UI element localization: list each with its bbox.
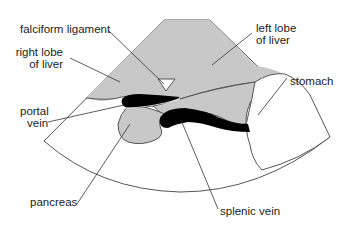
label-pancreas: pancreas (30, 196, 78, 208)
label-stomach: stomach (290, 75, 333, 87)
label-left-lobe: left lobe (256, 22, 296, 34)
label-portal-vein-2: vein (27, 117, 48, 129)
label-splenic-vein: splenic vein (220, 205, 280, 217)
label-right-lobe-2: of liver (29, 58, 63, 70)
pancreas (118, 106, 165, 144)
stomach (246, 74, 330, 170)
label-falciform-ligament: falciform ligament (20, 23, 111, 35)
label-left-lobe-2: of liver (256, 34, 290, 46)
label-portal-vein: portal (20, 105, 49, 117)
label-right-lobe: right lobe (16, 46, 63, 58)
leader-right-lobe (70, 58, 120, 82)
ultrasound-diagram: falciform ligament right lobe of liver l… (0, 0, 345, 235)
